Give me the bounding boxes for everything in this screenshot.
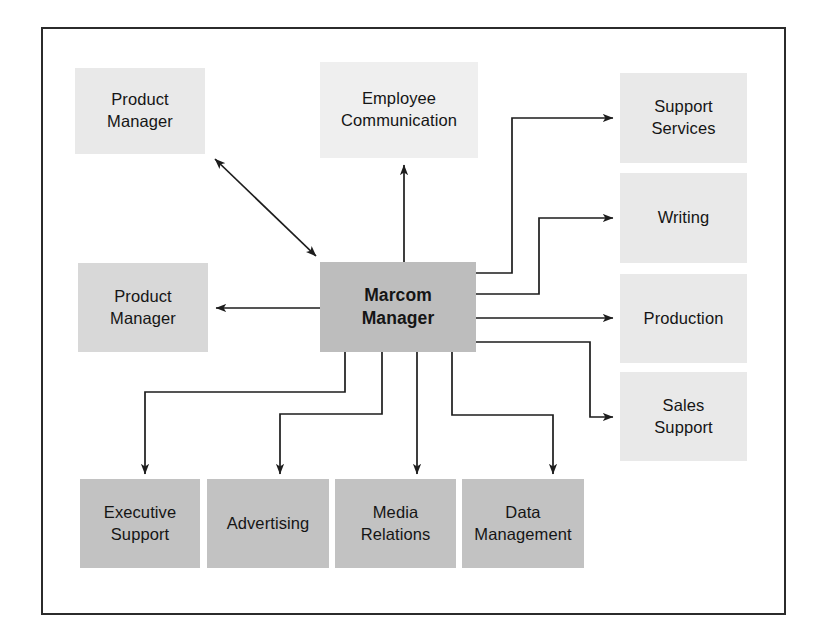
edge-marcom-to-writing — [476, 218, 613, 294]
node-label: ProductManager — [101, 89, 179, 133]
node-label: Writing — [652, 207, 716, 229]
node-media-relations[interactable]: MediaRelations — [335, 479, 456, 568]
node-marcom-manager[interactable]: MarcomManager — [320, 262, 476, 352]
edge-marcom-to-product-manager-top — [215, 159, 316, 256]
node-label: SalesSupport — [648, 395, 719, 439]
node-support-services[interactable]: SupportServices — [620, 73, 747, 163]
edge-marcom-to-sales-support — [476, 342, 613, 417]
node-label: Advertising — [221, 513, 316, 535]
node-label: ProductManager — [104, 286, 182, 330]
node-label: EmployeeCommunication — [335, 88, 463, 132]
node-sales-support[interactable]: SalesSupport — [620, 372, 747, 461]
edge-marcom-to-advertising — [280, 352, 382, 474]
node-label: DataManagement — [468, 502, 577, 546]
node-production[interactable]: Production — [620, 274, 747, 363]
edge-marcom-to-data-management — [452, 352, 553, 474]
edge-marcom-to-executive-support — [145, 352, 345, 474]
node-product-manager-top[interactable]: ProductManager — [75, 68, 205, 154]
node-label: ExecutiveSupport — [98, 502, 182, 546]
node-data-management[interactable]: DataManagement — [462, 479, 584, 568]
node-writing[interactable]: Writing — [620, 173, 747, 263]
diagram-canvas: ProductManager EmployeeCommunication Sup… — [0, 0, 820, 636]
node-label: MediaRelations — [355, 502, 437, 546]
edge-marcom-to-support-services — [476, 118, 613, 273]
node-label: SupportServices — [645, 96, 721, 140]
node-employee-communication[interactable]: EmployeeCommunication — [320, 62, 478, 158]
node-advertising[interactable]: Advertising — [207, 479, 329, 568]
node-executive-support[interactable]: ExecutiveSupport — [80, 479, 200, 568]
node-label: Production — [638, 308, 730, 330]
node-label: MarcomManager — [356, 284, 441, 330]
node-product-manager-left[interactable]: ProductManager — [78, 263, 208, 352]
